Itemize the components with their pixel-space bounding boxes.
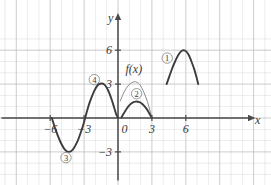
x-axis-label: x <box>254 113 261 127</box>
y-axis-label: y <box>107 11 114 25</box>
y-tick-label: 3 <box>105 77 112 91</box>
coordinate-axes <box>2 13 256 180</box>
y-tick-label: 6 <box>106 43 112 57</box>
x-tick-label: −3 <box>77 122 91 136</box>
annotation-number: 1 <box>165 53 169 63</box>
y-tick-label: −3 <box>98 145 112 159</box>
x-tick-label: −6 <box>43 122 57 136</box>
x-tick-label: 3 <box>148 122 155 136</box>
curve-annotations: f(x)1234 <box>61 53 173 163</box>
x-tick-label: 6 <box>183 122 189 136</box>
annotation-number: 2 <box>134 89 138 99</box>
math-graph-figure: −6−303663−3 f(x)1234 x y <box>0 0 271 185</box>
function-label: f(x) <box>125 62 142 76</box>
annotation-number: 3 <box>64 153 68 163</box>
graph-canvas: −6−303663−3 f(x)1234 x y <box>0 0 271 185</box>
y-axis-arrowhead <box>115 13 121 20</box>
curve-path-3 <box>121 102 152 118</box>
x-tick-label: 0 <box>122 122 128 136</box>
annotation-number: 4 <box>92 75 97 85</box>
